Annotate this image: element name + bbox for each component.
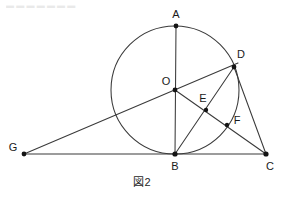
vertex-label-f: F: [234, 114, 241, 126]
figure-caption: 図2: [0, 173, 284, 189]
figure-container: ▬ ▬ ▬ ▬ ▬ ▬ ▬ A D O E F G B C 図2: [0, 0, 284, 197]
vertex-dot-a: [174, 24, 179, 29]
vertex-label-c: C: [266, 160, 274, 172]
vertex-label-e: E: [199, 92, 206, 104]
vertex-label-d: D: [237, 48, 245, 60]
geometry-diagram: A D O E F G B C: [0, 0, 284, 197]
vertex-dot-e: [204, 108, 208, 112]
segment-o-c: [175, 90, 266, 154]
segment-d-c: [234, 67, 266, 154]
vertex-dot-o: [173, 88, 178, 93]
vertex-dot-b: [172, 151, 177, 156]
vertex-label-b: B: [171, 160, 178, 172]
vertex-dot-f: [225, 123, 229, 127]
vertex-dot-d: [232, 65, 237, 70]
vertex-dot-g: [22, 152, 27, 157]
vertex-label-g: G: [9, 141, 18, 153]
vertex-dot-c: [263, 151, 268, 156]
vertex-label-a: A: [172, 8, 180, 20]
vertex-label-o: O: [162, 75, 171, 87]
